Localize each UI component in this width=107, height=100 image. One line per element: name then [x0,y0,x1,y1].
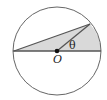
angle-label: θ [69,39,76,52]
center-label: O [53,53,62,66]
circle-diagram: θ O [0,0,107,100]
